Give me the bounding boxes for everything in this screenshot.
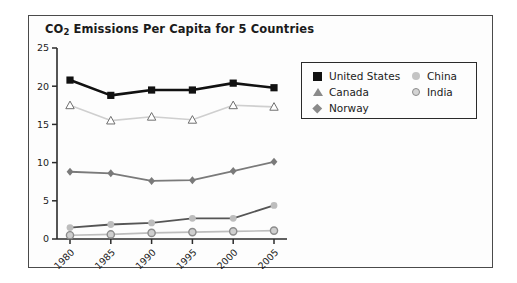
x-axis-tick-label: 1990 [133, 247, 158, 269]
data-point-marker [66, 101, 74, 109]
legend-item-label: Norway [329, 103, 369, 114]
x-axis-tick-label: 1980 [52, 247, 77, 269]
data-point-marker [148, 229, 155, 236]
x-axis-tick-label: 1985 [92, 247, 117, 269]
data-point-marker [230, 228, 237, 235]
series-line [70, 231, 274, 236]
legend-item-label: China [427, 71, 457, 82]
filled-circle-light-icon [409, 70, 422, 83]
series-india [66, 227, 277, 239]
chart-series [66, 76, 278, 238]
data-point-marker [66, 232, 73, 239]
data-point-marker [270, 84, 277, 91]
series-norway [67, 158, 278, 185]
data-point-marker [148, 220, 155, 227]
y-axis-tick-label: 15 [37, 119, 49, 130]
open-triangle-icon [311, 86, 324, 99]
legend-column-left: United StatesCanadaNorway [311, 68, 400, 116]
data-point-marker [66, 76, 73, 83]
chart-figure: CO2 Emissions Per Capita for 5 Countries… [28, 15, 493, 268]
series-line [70, 80, 274, 95]
legend-column-right: ChinaIndia [409, 68, 457, 100]
series-united-states [66, 76, 277, 98]
y-axis-tick-label: 20 [37, 81, 49, 92]
chart-legend: United StatesCanadaNorway ChinaIndia [301, 62, 477, 119]
data-point-marker [189, 229, 196, 236]
filled-square-black-icon [311, 70, 324, 83]
data-point-marker [230, 215, 237, 222]
legend-item-label: India [427, 87, 453, 98]
y-axis-tick-label: 5 [43, 195, 49, 206]
data-point-marker [67, 224, 74, 231]
data-point-marker [189, 176, 196, 184]
data-point-marker [107, 169, 114, 177]
data-point-marker [67, 168, 74, 176]
data-point-marker [189, 86, 196, 93]
legend-item-canada[interactable]: Canada [311, 84, 400, 100]
data-point-marker [230, 80, 237, 87]
legend-item-china[interactable]: China [409, 68, 457, 84]
series-line [70, 105, 274, 120]
legend-item-label: Canada [329, 87, 369, 98]
legend-item-united-states[interactable]: United States [311, 68, 400, 84]
legend-item-india[interactable]: India [409, 84, 457, 100]
series-line [70, 162, 274, 181]
x-axis-tick-label: 2000 [215, 247, 240, 269]
x-axis-tick-label: 1995 [174, 247, 199, 269]
data-point-marker [189, 215, 196, 222]
data-point-marker [107, 221, 114, 228]
data-point-marker [148, 86, 155, 93]
data-point-marker [271, 202, 278, 209]
data-point-marker [270, 227, 277, 234]
series-line [70, 205, 274, 227]
legend-item-norway[interactable]: Norway [311, 100, 400, 116]
series-china [67, 202, 278, 231]
line-chart-plot: 0510152025Metric Tons1980198519901995200… [29, 16, 494, 269]
y-axis-tick-label: 0 [43, 233, 49, 244]
data-point-marker [107, 92, 114, 99]
y-axis-tick-label: 25 [37, 42, 49, 53]
series-canada [66, 101, 278, 124]
legend-item-label: United States [329, 71, 400, 82]
data-point-marker [107, 231, 114, 238]
data-point-marker [230, 167, 237, 175]
diamond-gray-icon [311, 102, 324, 115]
x-axis-tick-label: 2005 [256, 247, 281, 269]
y-axis-tick-label: 10 [37, 157, 49, 168]
data-point-marker [148, 177, 155, 185]
data-point-marker [271, 158, 278, 166]
ringed-circle-gray-icon [409, 86, 422, 99]
